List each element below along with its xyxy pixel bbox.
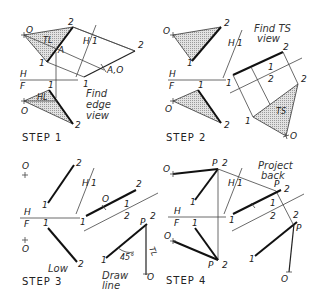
label-o: O — [22, 244, 29, 254]
label-1: 1 — [237, 178, 243, 188]
label-h: H — [20, 69, 27, 79]
fold-line-12 — [230, 58, 302, 93]
label-h: H — [228, 178, 235, 188]
label-1: 1 — [187, 58, 193, 68]
label-f: F — [169, 81, 175, 91]
label-2: 2 — [224, 18, 230, 28]
label-o: O — [163, 26, 170, 36]
label-1: 1 — [39, 58, 45, 68]
label-1: 1 — [91, 178, 97, 188]
label-2: 2 — [222, 158, 228, 168]
label-f: F — [24, 219, 30, 229]
label-2: 2 — [293, 210, 299, 220]
note-line: edge — [86, 99, 111, 110]
label-2: 2 — [124, 211, 130, 221]
label-2: 2 — [224, 120, 230, 130]
line-1-2-top — [48, 165, 74, 203]
label-1: 1 — [124, 199, 130, 209]
label-2: 2 — [76, 158, 82, 168]
line-1-2-top — [195, 169, 218, 200]
label-1: 1 — [237, 38, 243, 48]
label-o: O — [147, 272, 154, 282]
label-a-o: A,O — [106, 65, 123, 75]
label-o: O — [22, 161, 29, 171]
step-caption: STEP 4 — [166, 275, 206, 286]
fold-line-h1 — [76, 25, 96, 77]
label-h: H — [83, 36, 90, 46]
label-o: O — [102, 194, 109, 204]
step-caption: STEP 3 — [22, 276, 62, 287]
label-h: H — [228, 38, 235, 48]
step-caption: STEP 1 — [22, 132, 62, 143]
label-o: O — [281, 274, 288, 284]
note-line: view — [257, 33, 281, 44]
front-view-plane — [173, 90, 221, 123]
note-line: view — [86, 110, 110, 121]
label-2: 2 — [283, 42, 289, 52]
line-p-o-ts — [289, 224, 294, 272]
panel-step-1: O 2 TL A 1 H 1 2 A,O 1 H F 1 HL O 2 — [20, 17, 144, 143]
angle-label: 45° — [120, 253, 134, 262]
label-2: 2 — [268, 74, 274, 84]
label-hl: HL — [37, 93, 47, 102]
panel-step-2: O 2 1 H 1 H F 1 O 2 1 2 1 2 2 1 O TS — [163, 18, 307, 143]
label-h: H — [169, 69, 176, 79]
label-2: 2 — [270, 211, 276, 221]
label-h: H — [24, 207, 31, 217]
note-line: Find — [86, 88, 108, 99]
label-tl: TL — [43, 36, 52, 45]
label-1: 1 — [48, 80, 54, 90]
label-1: 1 — [249, 254, 255, 264]
label-h: H — [174, 206, 181, 216]
label-2: 2 — [68, 17, 74, 27]
label-1: 1 — [80, 217, 86, 227]
label-p: P — [140, 217, 146, 227]
label-o: O — [21, 106, 28, 116]
label-h: H — [82, 178, 89, 188]
descriptive-geometry-figure: O 2 TL A 1 H 1 2 A,O 1 H F 1 HL O 2 — [0, 0, 319, 304]
edge-view-line — [233, 52, 283, 75]
label-2: 2 — [222, 260, 228, 270]
angle-arc — [118, 248, 134, 253]
label-1: 1 — [101, 255, 107, 265]
label-p: P — [212, 158, 218, 168]
label-f: F — [20, 81, 26, 91]
label-tl: TL — [147, 246, 159, 258]
label-2: 2 — [284, 184, 290, 194]
label-ts: TS — [276, 107, 286, 116]
note-line: line — [102, 280, 120, 291]
label-o: O — [163, 164, 170, 174]
line-1-2-front — [48, 228, 77, 262]
label-2: 2 — [138, 40, 144, 50]
note-low: Low — [48, 263, 69, 274]
label-p: P — [208, 260, 214, 270]
panel-step-3: O 2 1 H 1 H F 1 2 O 1 O 2 1 2 P 2 1 45° — [20, 158, 159, 291]
label-2: 2 — [150, 211, 156, 221]
label-f: F — [174, 218, 180, 228]
label-o: O — [165, 104, 172, 114]
label-o: O — [164, 231, 171, 241]
label-o: O — [290, 131, 297, 141]
step-caption: STEP 2 — [166, 132, 206, 143]
note-line: back — [261, 170, 286, 181]
line-o-p-top — [173, 169, 218, 174]
fold-line-h1 — [76, 168, 94, 214]
panel-step-4: O P 2 1 H 1 H F 1 O P 2 1 P 2 1 2 — [163, 158, 304, 286]
label-2: 2 — [75, 120, 81, 130]
label-1: 1 — [92, 36, 98, 46]
label-a: A — [57, 45, 64, 55]
label-1: 1 — [226, 78, 232, 88]
label-2: 2 — [136, 179, 142, 189]
label-1: 1 — [42, 200, 48, 210]
label-1: 1 — [270, 198, 276, 208]
label-1: 1 — [268, 62, 274, 72]
label-1: 1 — [190, 197, 196, 207]
label-p: P — [296, 223, 302, 233]
label-1: 1 — [43, 218, 49, 228]
label-1: 1 — [229, 215, 235, 225]
label-1: 1 — [245, 116, 251, 126]
front-view-plane — [24, 90, 73, 124]
label-2: 2 — [301, 74, 307, 84]
label-o: O — [26, 25, 33, 35]
label-1: 1 — [192, 218, 198, 228]
